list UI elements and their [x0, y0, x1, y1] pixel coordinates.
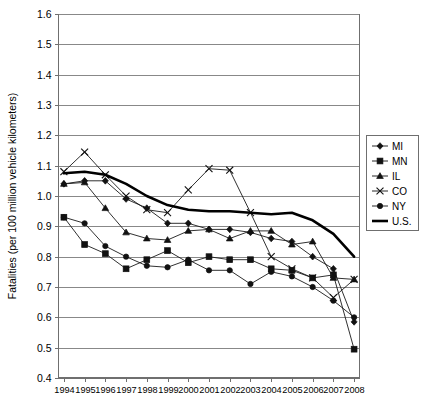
- legend-label: CO: [392, 186, 407, 197]
- data-point-marker: [144, 257, 150, 263]
- chart-legend: MIMNILCONYU.S.: [367, 136, 419, 231]
- data-point-marker: [81, 149, 88, 156]
- y-tick-label: 0.5: [37, 342, 52, 354]
- y-tick-labels: 0.40.50.60.70.80.91.01.11.21.31.41.51.6: [37, 8, 52, 384]
- series-path: [64, 217, 354, 349]
- data-point-marker: [186, 257, 191, 262]
- y-tick-label: 0.6: [37, 311, 52, 323]
- data-point-marker: [144, 263, 149, 268]
- data-point-marker: [268, 228, 275, 234]
- x-tick-label: 1995: [75, 385, 95, 395]
- y-tick-label: 0.9: [37, 220, 52, 232]
- data-point-marker: [185, 186, 192, 193]
- series-co: [60, 149, 357, 302]
- data-point-marker: [351, 315, 356, 320]
- y-tick-label: 1.4: [37, 69, 52, 81]
- x-tick-label: 1998: [137, 385, 157, 395]
- x-tick-label: 1999: [158, 385, 178, 395]
- y-tick-label: 1.0: [37, 190, 52, 202]
- data-point-marker: [227, 226, 233, 233]
- y-tick-label: 1.2: [37, 129, 52, 141]
- x-tick-label: 1994: [54, 385, 74, 395]
- x-tick-label: 2000: [178, 385, 198, 395]
- data-point-marker: [248, 281, 253, 286]
- data-point-marker: [351, 346, 357, 352]
- x-tick-label: 1997: [116, 385, 136, 395]
- data-point-marker: [227, 268, 232, 273]
- series-mn: [61, 214, 357, 352]
- y-tick-label: 1.1: [37, 160, 52, 172]
- data-point-marker: [330, 265, 336, 272]
- data-point-marker: [165, 265, 170, 270]
- data-point-marker: [206, 268, 211, 273]
- y-tick-label: 1.6: [37, 8, 52, 20]
- x-tick-label: 2004: [261, 385, 281, 395]
- data-point-marker: [331, 298, 336, 303]
- data-point-marker: [377, 158, 383, 164]
- series-layer: [60, 149, 357, 353]
- data-point-marker: [377, 203, 382, 208]
- y-axis-title: Fatalities (per 100 million vehicle kilo…: [6, 93, 18, 300]
- chart-svg: 0.40.50.60.70.80.91.01.11.21.31.41.51.6 …: [0, 0, 424, 411]
- x-tick-label: 2007: [323, 385, 343, 395]
- fatalities-line-chart: 0.40.50.60.70.80.91.01.11.21.31.41.51.6 …: [0, 0, 424, 411]
- x-tick-label: 2005: [282, 385, 302, 395]
- y-tick-label: 0.4: [37, 372, 52, 384]
- data-point-marker: [206, 254, 212, 260]
- data-point-marker: [102, 251, 108, 257]
- data-point-marker: [82, 221, 87, 226]
- y-tick-label: 1.5: [37, 38, 52, 50]
- x-tick-label: 2008: [344, 385, 364, 395]
- data-point-marker: [248, 257, 254, 263]
- y-tick-label: 0.8: [37, 251, 52, 263]
- data-point-marker: [185, 220, 191, 227]
- x-tick-label: 1996: [95, 385, 115, 395]
- legend-label: IL: [392, 171, 401, 182]
- y-tick-label: 1.3: [37, 99, 52, 111]
- data-point-marker: [310, 284, 315, 289]
- data-point-marker: [227, 257, 233, 263]
- data-point-marker: [164, 220, 170, 227]
- x-tick-label: 2003: [240, 385, 260, 395]
- data-point-marker: [309, 238, 316, 244]
- data-point-marker: [82, 242, 88, 248]
- legend-label: NY: [392, 201, 406, 212]
- data-point-marker: [310, 253, 316, 260]
- legend-label: MN: [392, 156, 408, 167]
- x-tick-label: 2002: [220, 385, 240, 395]
- data-point-marker: [247, 228, 254, 234]
- series-il: [61, 179, 358, 282]
- x-tick-labels: 1994199519961997199819992000200120022003…: [54, 385, 364, 395]
- data-point-marker: [268, 235, 274, 242]
- data-point-marker: [61, 215, 66, 220]
- y-axis-title-text: Fatalities (per 100 million vehicle kilo…: [6, 93, 18, 300]
- legend-label: MI: [392, 141, 403, 152]
- x-tick-label: 2006: [303, 385, 323, 395]
- data-point-marker: [269, 269, 274, 274]
- x-tick-marks: [65, 378, 355, 382]
- data-point-marker: [123, 266, 129, 272]
- data-point-marker: [103, 243, 108, 248]
- y-tick-label: 0.7: [37, 281, 52, 293]
- data-point-marker: [123, 254, 128, 259]
- data-point-marker: [289, 274, 294, 279]
- y-tick-marks: [55, 15, 59, 379]
- data-point-marker: [268, 253, 275, 260]
- data-point-marker: [165, 248, 171, 254]
- x-tick-label: 2001: [199, 385, 219, 395]
- legend-label: U.S.: [392, 216, 411, 227]
